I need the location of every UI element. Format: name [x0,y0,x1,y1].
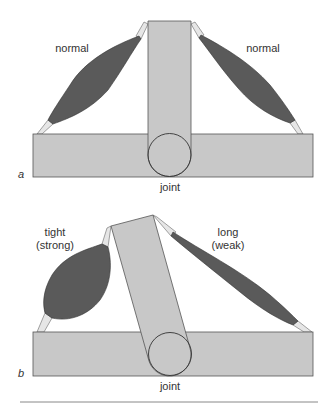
left-muscle-label-b-line1: tight [30,226,80,239]
panel-letter-b: b [18,367,24,379]
left-tendon-top-b [102,226,111,247]
right-muscle-label-b-line1: long [208,226,248,239]
right-muscle-label-a: normal [243,42,283,55]
joint-label-b: joint [150,380,190,393]
right-muscle-label-b-line2: (weak) [208,239,248,252]
left-muscle-b [44,244,111,319]
left-muscle-label-b-line2: (strong) [30,239,80,252]
panel-letter-a: a [18,168,24,180]
left-muscle-label-b: tight (strong) [30,226,80,252]
diagram-canvas [0,0,330,409]
vertical-bone-a [148,21,191,177]
left-muscle-label-a: normal [52,42,92,55]
joint-label-a: joint [150,181,190,194]
right-muscle-label-b: long (weak) [208,226,248,252]
